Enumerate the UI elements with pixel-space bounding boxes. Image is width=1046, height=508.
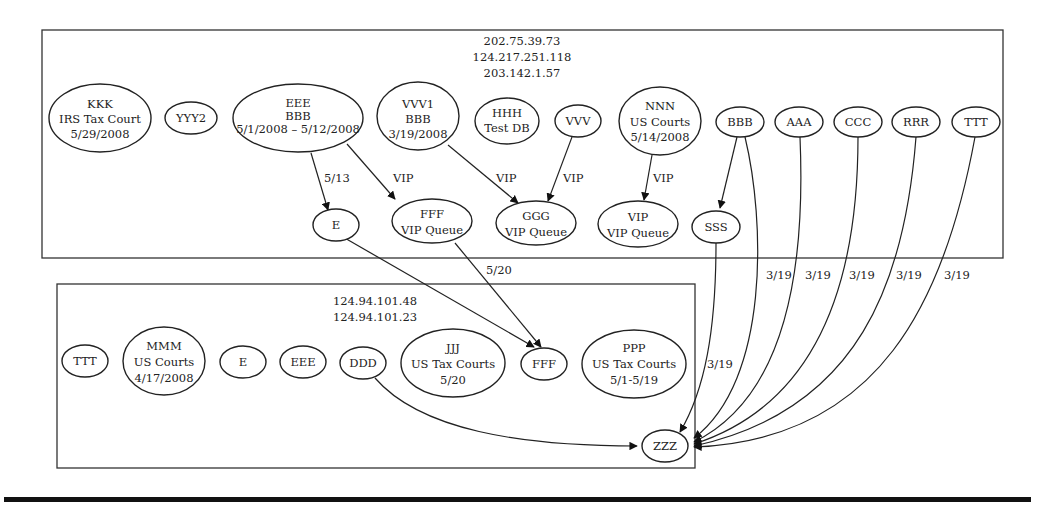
node-ttt-bottom[interactable]: TTT	[62, 345, 108, 377]
svg-text:HHH: HHH	[492, 106, 522, 120]
svg-text:JJJ: JJJ	[445, 341, 460, 355]
svg-text:DDD: DDD	[349, 356, 377, 370]
svg-text:PPP: PPP	[622, 341, 645, 355]
network-diagram: 202.75.39.73 124.217.251.118 203.142.1.5…	[0, 0, 1046, 508]
edge-vvv-ggg	[548, 137, 572, 201]
svg-text:KKK: KKK	[87, 97, 113, 111]
svg-text:TTT: TTT	[73, 354, 97, 368]
edge-label-vvv-ggg: VIP	[562, 171, 584, 185]
edge-ccc-zzz	[694, 137, 858, 444]
svg-text:CCC: CCC	[845, 115, 872, 129]
svg-text:VVV: VVV	[565, 114, 592, 128]
svg-text:US Tax Courts: US Tax Courts	[411, 357, 495, 371]
node-fff-vip-queue[interactable]: FFF VIP Queue	[392, 199, 472, 243]
edge-label-bbb-zzz: 3/19	[766, 268, 792, 282]
svg-text:VIP Queue: VIP Queue	[504, 225, 567, 239]
edge-label-eee-fff: VIP	[392, 171, 414, 185]
node-kkk[interactable]: KKK IRS Tax Court 5/29/2008	[49, 84, 151, 152]
svg-text:TTT: TTT	[964, 115, 988, 129]
svg-text:VIP Queue: VIP Queue	[606, 226, 669, 240]
cluster-top-ip-3: 203.142.1.57	[484, 66, 561, 80]
svg-text:5/1-5/19: 5/1-5/19	[610, 373, 658, 387]
svg-text:FFF: FFF	[532, 357, 556, 371]
node-eee-bottom[interactable]: EEE	[280, 346, 326, 378]
svg-text:US Courts: US Courts	[134, 355, 194, 369]
edge-ttt-zzz	[694, 137, 975, 447]
svg-text:EEE: EEE	[285, 96, 310, 110]
svg-text:EEE: EEE	[290, 355, 315, 369]
cluster-bottom-ip-2: 124.94.101.23	[333, 310, 417, 324]
svg-text:FFF: FFF	[420, 207, 444, 221]
svg-text:YYY2: YYY2	[175, 111, 206, 125]
svg-text:5/29/2008: 5/29/2008	[71, 127, 130, 141]
node-nnn[interactable]: NNN US Courts 5/14/2008	[619, 87, 701, 155]
cluster-top-ip-2: 124.217.251.118	[473, 50, 572, 64]
edge-label-ccc-zzz: 3/19	[849, 268, 875, 282]
edge-label-nnn-vip: VIP	[652, 171, 674, 185]
svg-text:RRR: RRR	[903, 115, 929, 129]
svg-text:GGG: GGG	[522, 209, 550, 223]
node-ttt-top[interactable]: TTT	[952, 107, 1000, 137]
node-sss[interactable]: SSS	[692, 211, 740, 243]
node-bbb[interactable]: BBB	[716, 107, 764, 137]
edge-sss-zzz	[680, 243, 716, 432]
svg-text:5/20: 5/20	[440, 373, 466, 387]
svg-text:ZZZ: ZZZ	[653, 439, 677, 453]
node-rrr[interactable]: RRR	[892, 107, 940, 137]
svg-text:Test DB: Test DB	[484, 121, 529, 135]
svg-text:US Courts: US Courts	[630, 115, 690, 129]
node-jjj[interactable]: JJJ US Tax Courts 5/20	[401, 329, 505, 397]
svg-text:4/17/2008: 4/17/2008	[135, 371, 194, 385]
edge-eee-fff	[347, 144, 395, 199]
svg-text:E: E	[239, 355, 247, 369]
edge-label-vvv1-ggg: VIP	[495, 171, 517, 185]
edge-aaa-zzz	[694, 137, 801, 442]
svg-text:NNN: NNN	[645, 99, 675, 113]
node-ggg-vip-queue[interactable]: GGG VIP Queue	[496, 201, 576, 245]
edge-label-sss-zzz: 3/19	[707, 357, 733, 371]
node-aaa[interactable]: AAA	[775, 107, 823, 137]
svg-text:VIP: VIP	[627, 210, 649, 224]
node-vvv[interactable]: VVV	[555, 105, 601, 137]
svg-text:SSS: SSS	[704, 220, 727, 234]
node-zzz[interactable]: ZZZ	[642, 430, 688, 462]
svg-text:US Tax Courts: US Tax Courts	[592, 357, 676, 371]
edge-nnn-vip	[644, 155, 652, 200]
svg-text:AAA: AAA	[786, 115, 813, 129]
node-eee-bbb[interactable]: EEE BBB 5/1/2008 – 5/12/2008	[233, 84, 363, 152]
edge-label-rrr-zzz: 3/19	[896, 268, 922, 282]
svg-text:E: E	[332, 218, 340, 232]
edge-label-aaa-zzz: 3/19	[805, 268, 831, 282]
svg-text:5/1/2008 – 5/12/2008: 5/1/2008 – 5/12/2008	[236, 122, 360, 136]
cluster-top-ip-1: 202.75.39.73	[484, 34, 561, 48]
node-vip-vip-queue[interactable]: VIP VIP Queue	[598, 201, 678, 247]
node-ddd[interactable]: DDD	[340, 347, 386, 379]
node-vvv1[interactable]: VVV1 BBB 3/19/2008	[377, 82, 459, 150]
edge-rrr-zzz	[694, 137, 916, 446]
svg-text:MMM: MMM	[146, 339, 182, 353]
svg-text:BBB: BBB	[405, 112, 430, 126]
edge-bbb-sss	[720, 137, 737, 208]
svg-text:BBB: BBB	[285, 109, 310, 123]
node-e-bottom[interactable]: E	[220, 346, 266, 378]
svg-text:VVV1: VVV1	[401, 97, 434, 111]
svg-text:VIP Queue: VIP Queue	[400, 223, 463, 237]
node-e-top[interactable]: E	[313, 209, 359, 241]
node-hhh[interactable]: HHH Test DB	[475, 98, 539, 144]
node-ppp[interactable]: PPP US Tax Courts 5/1-5/19	[582, 330, 686, 398]
node-yyy2[interactable]: YYY2	[165, 102, 217, 134]
edges: 5/13 VIP VIP VIP VIP 5/20 3/19 3/19 3/19…	[311, 137, 975, 447]
edge-label-ttt-zzz: 3/19	[944, 268, 970, 282]
svg-text:5/14/2008: 5/14/2008	[631, 130, 690, 144]
node-fff-bottom[interactable]: FFF	[521, 348, 567, 380]
node-mmm[interactable]: MMM US Courts 4/17/2008	[123, 327, 205, 395]
cluster-bottom-ip-1: 124.94.101.48	[333, 294, 417, 308]
bottom-rule	[4, 497, 1031, 502]
svg-text:3/19/2008: 3/19/2008	[389, 127, 448, 141]
edge-label-eee-e: 5/13	[324, 171, 350, 185]
node-ccc[interactable]: CCC	[834, 107, 882, 137]
svg-text:BBB: BBB	[727, 115, 752, 129]
svg-text:IRS Tax Court: IRS Tax Court	[59, 112, 141, 126]
edge-label-fffvip-fff: 5/20	[486, 263, 512, 277]
